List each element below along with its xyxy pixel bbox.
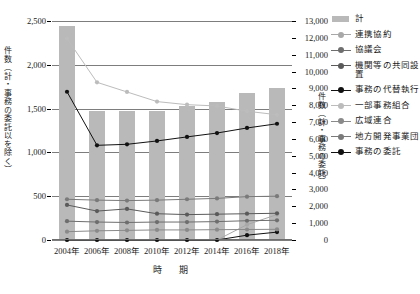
legend-label: 地方開発事業団 <box>355 132 419 142</box>
legend-dot <box>338 87 344 93</box>
data-point <box>245 223 249 227</box>
series-事務の委託 <box>65 90 279 148</box>
series-連携協約 <box>65 213 279 243</box>
x-tick-2014年: 2014年 <box>200 244 234 256</box>
data-point <box>65 90 69 94</box>
data-point <box>245 126 249 130</box>
data-point <box>155 212 159 216</box>
x-tick-2010年: 2010年 <box>140 244 174 256</box>
right-tick-dash <box>292 55 296 56</box>
left-tick-dash <box>47 109 51 110</box>
legend-marker-icon <box>330 132 352 142</box>
data-point <box>275 122 279 126</box>
left-tick-dash <box>47 152 51 153</box>
right-tick-7000: 7,000 <box>292 118 328 126</box>
series-一部事務組合 <box>65 36 279 116</box>
data-point <box>215 196 219 200</box>
line-series-layer <box>52 21 292 240</box>
legend-label: 一部事務組合 <box>355 101 410 111</box>
legend-item-協議会[interactable]: 協議会 <box>330 45 420 55</box>
left-tick-dash <box>47 196 51 197</box>
data-point <box>215 131 219 135</box>
data-point <box>125 198 129 202</box>
left-axis-title: 件数（計・事務の委託以を除く） <box>2 46 11 246</box>
x-axis-title: 時 期 <box>52 263 292 276</box>
left-tick-0: 0 <box>12 236 46 244</box>
chart-container: 件数（計・事務の委託以を除く） 件数（計・事務の委託） 05001,0001,5… <box>0 0 420 294</box>
data-point <box>125 228 129 232</box>
right-tick-dash <box>292 21 296 22</box>
legend-marker-icon <box>330 116 352 126</box>
legend-marker-icon <box>330 45 352 55</box>
legend-dot <box>338 149 344 155</box>
data-point <box>185 228 189 232</box>
data-point <box>215 228 219 232</box>
right-tick-dash <box>292 156 296 157</box>
right-tick-dash <box>292 88 296 89</box>
legend-item-地方開発事業団[interactable]: 地方開発事業団 <box>330 132 420 142</box>
data-point <box>95 143 99 147</box>
right-tick-dash <box>292 105 296 106</box>
right-tick-dash <box>292 206 296 207</box>
left-tick-500: 500 <box>12 192 46 200</box>
legend-marker-icon <box>330 101 352 111</box>
data-point <box>125 90 129 94</box>
legend-label: 機関等の共同設置 <box>355 61 420 80</box>
legend-item-連携協約[interactable]: 連携協約 <box>330 30 420 40</box>
right-tick-8000: 8,000 <box>292 101 328 109</box>
data-point <box>185 197 189 201</box>
right-tick-dash <box>292 189 296 190</box>
data-point <box>125 207 129 211</box>
legend-item-計[interactable]: 計 <box>330 14 420 24</box>
legend-item-事務の委託[interactable]: 事務の委託 <box>330 147 420 157</box>
data-point <box>155 99 159 103</box>
data-point <box>185 135 189 139</box>
series-機関等の共同設置 <box>65 203 279 217</box>
right-tick-dash <box>292 122 296 123</box>
data-point <box>215 220 219 224</box>
data-point <box>245 109 249 113</box>
right-tick-12000: 12,000 <box>292 34 328 42</box>
right-tick-dash <box>292 38 296 39</box>
legend-label: 事務の委託 <box>355 147 401 157</box>
data-point <box>125 220 129 224</box>
data-point <box>245 233 249 237</box>
right-tick-0: 0 <box>292 236 328 244</box>
legend-dot <box>338 134 344 140</box>
left-tick-1000: 1,000 <box>12 148 46 156</box>
legend-label: 連携協約 <box>355 30 392 40</box>
data-point <box>215 212 219 216</box>
right-tick-11000: 11,000 <box>292 51 328 59</box>
left-tick-2000: 2,000 <box>12 61 46 69</box>
plot-area <box>52 21 292 240</box>
data-point <box>275 218 279 222</box>
right-tick-dash <box>292 173 296 174</box>
data-point <box>155 228 159 232</box>
right-tick-1000: 1,000 <box>292 219 328 227</box>
data-point <box>95 229 99 233</box>
legend-dot <box>338 63 344 69</box>
x-tick-2016年: 2016年 <box>230 244 264 256</box>
data-point <box>125 142 129 146</box>
data-point <box>185 213 189 217</box>
data-point <box>245 195 249 199</box>
left-tick-dash <box>47 65 51 66</box>
data-point <box>245 212 249 216</box>
right-tick-dash <box>292 72 296 73</box>
right-tick-dash <box>292 139 296 140</box>
data-point <box>65 36 69 40</box>
data-point <box>95 198 99 202</box>
legend-item-事務の代替執行[interactable]: 事務の代替執行 <box>330 85 420 95</box>
legend-label: 計 <box>355 14 364 24</box>
left-tick-1500: 1,500 <box>12 105 46 113</box>
legend-item-広域連合[interactable]: 広域連合 <box>330 116 420 126</box>
left-tick-2500: 2,500 <box>12 17 46 25</box>
x-tick-2006年: 2006年 <box>80 244 114 256</box>
legend-marker-icon <box>330 14 352 24</box>
legend-item-機関等の共同設置[interactable]: 機関等の共同設置 <box>330 61 420 80</box>
legend-dot <box>338 32 344 38</box>
legend-item-一部事務組合[interactable]: 一部事務組合 <box>330 101 420 111</box>
legend-dot <box>338 103 344 109</box>
data-point <box>275 227 279 231</box>
data-point <box>275 194 279 198</box>
